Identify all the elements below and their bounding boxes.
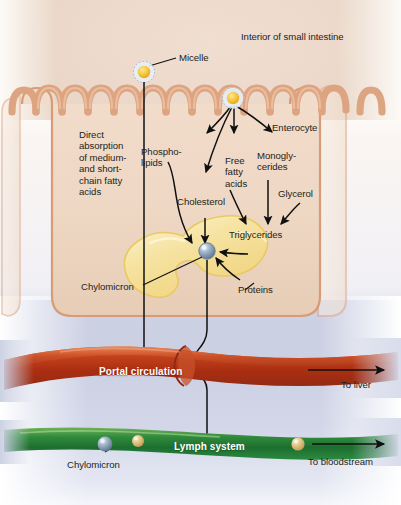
diagram-canvas: Interior of small intestine Micelle Ente… [0, 0, 401, 505]
glycerol-label: Glycerol [278, 188, 313, 199]
chylomicron-icon-lymph-2 [132, 435, 144, 447]
chylomicron-icon-lymph-3 [291, 437, 304, 450]
chylomicron-icon-cell [199, 243, 215, 259]
micelle-label: Micelle [179, 52, 209, 63]
lumen-label: Interior of small intestine [241, 31, 344, 42]
monoglycerides-label: Monogly- cerides [257, 150, 296, 173]
triglycerides-label: Triglycerides [229, 229, 282, 240]
diagram-graphics [0, 0, 401, 505]
chylomicron-cell-label: Chylomicron [81, 281, 134, 292]
cholesterol-label: Cholesterol [177, 196, 225, 207]
phospholipids-label: Phospho- lipids [141, 146, 182, 169]
enterocyte-right-partial [318, 86, 346, 316]
to-bloodstream-label: To bloodstream [308, 456, 373, 467]
micelle-icon-2 [222, 87, 243, 108]
chylomicron-lymph-label: Chylomicron [67, 459, 120, 470]
proteins-label: Proteins [238, 284, 273, 295]
micelle-icon-1 [133, 61, 154, 82]
portal-circulation-label: Portal circulation [99, 366, 183, 377]
chylomicron-icon-lymph-1 [98, 437, 113, 452]
free-fatty-acids-label: Free fatty acids [225, 155, 247, 189]
to-liver-label: To liver [341, 379, 371, 390]
enterocyte-label: Enterocyte [272, 122, 317, 133]
direct-absorption-label: Direct absorption of medium- and short- … [79, 129, 126, 197]
enterocyte-left-partial [2, 96, 20, 316]
lymph-system-label: Lymph system [174, 441, 245, 452]
